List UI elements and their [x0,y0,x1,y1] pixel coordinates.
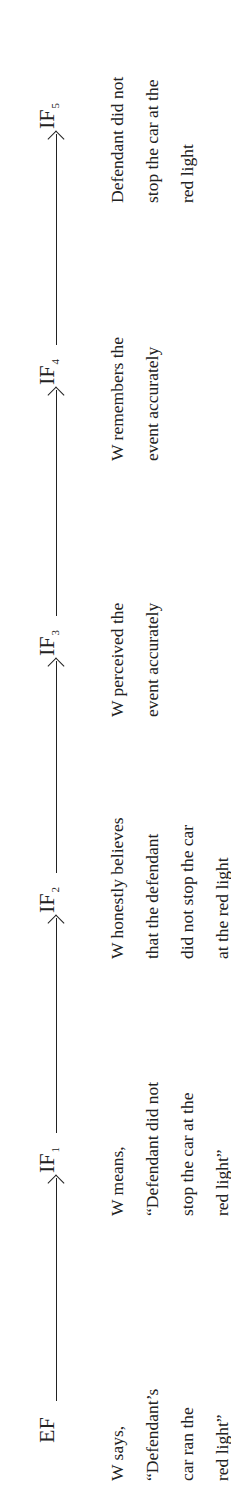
description-line: did not stop the car [170,817,205,959]
description-line: at the red light [205,817,231,959]
description-line: red light” [205,1389,231,1481]
description-line: W remembers the [100,337,135,461]
description-line: W perceived the [100,603,135,717]
description-line: W says, [100,1389,135,1481]
description-line: stop the car at the [170,1082,205,1216]
description-if4: W remembers the event accurately [100,337,170,461]
node-if2: IF2 [36,887,66,913]
description-if1: W means, “Defendant did not stop the car… [100,1082,231,1216]
description-line: “Defendant’s [135,1389,170,1481]
node-if5: IF5 [36,103,66,129]
description-if2: W honestly believes that the defendant d… [100,817,231,959]
description-line: W means, [100,1082,135,1216]
description-if3: W perceived the event accurately [100,603,170,717]
description-line: W honestly believes [100,817,135,959]
description-if5: Defendant did not stop the car at the re… [100,77,205,203]
inference-chain-diagram: EF IF1 IF2 IF3 IF4 IF5 W says, “Defendan… [0,0,231,1491]
node-ef: EF [36,1417,58,1443]
description-line: “Defendant did not [135,1082,170,1216]
description-line: stop the car at the [135,77,170,203]
arrow-if4-to-if5 [56,134,57,345]
description-line: that the defendant [135,817,170,959]
node-if3: IF3 [36,630,66,656]
node-if1: IF1 [36,1147,66,1173]
description-line: car ran the [170,1389,205,1481]
description-line: Defendant did not [100,77,135,203]
description-ef: W says, “Defendant’s car ran the red lig… [100,1389,231,1481]
arrow-if2-to-if3 [56,661,57,873]
description-line: event accurately [135,603,170,717]
node-if4: IF4 [36,359,66,385]
arrow-ef-to-if1 [56,1178,57,1401]
arrow-if1-to-if2 [56,918,57,1133]
description-line: event accurately [135,337,170,461]
description-line: red light” [205,1082,231,1216]
description-line: red light [170,77,205,203]
arrow-if3-to-if4 [56,390,57,616]
